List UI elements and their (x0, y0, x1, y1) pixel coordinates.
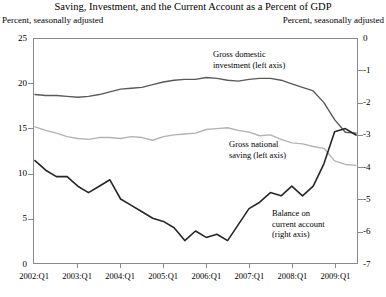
right-tick-mark (358, 135, 363, 136)
right-tick-mark (358, 199, 363, 200)
right-tick-label: -4 (363, 163, 386, 172)
x-tick-mark (249, 264, 250, 268)
left-tick-label: 20 (0, 79, 27, 88)
annotation-line: saving (left axis) (229, 150, 286, 161)
annotation-line: current account (272, 219, 325, 230)
left-tick-mark (28, 174, 33, 175)
right-tick-mark (358, 167, 363, 168)
left-tick-label: 5 (0, 214, 27, 223)
x-tick-label: 2004:Q1 (105, 271, 135, 281)
x-tick-label: 2007:Q1 (234, 271, 264, 281)
x-tick-label: 2005:Q1 (148, 271, 178, 281)
chart-figure: Saving, Investment, and the Current Acco… (0, 0, 386, 297)
chart-title: Saving, Investment, and the Current Acco… (0, 0, 386, 13)
right-tick-label: -5 (363, 195, 386, 204)
x-tick-mark (335, 264, 336, 268)
x-tick-mark (206, 264, 207, 268)
right-tick-mark (358, 232, 363, 233)
annotation-line: Gross national (229, 139, 286, 150)
left-tick-label: 10 (0, 169, 27, 178)
x-tick-label: 2009:Q1 (321, 271, 351, 281)
right-tick-mark (358, 70, 363, 71)
x-tick-label: 2003:Q1 (62, 271, 92, 281)
right-tick-label: -7 (363, 260, 386, 269)
left-tick-mark (28, 219, 33, 220)
x-tick-mark (292, 264, 293, 268)
annotation-line: (right axis) (272, 229, 325, 240)
left-tick-label: 25 (0, 34, 27, 43)
right-tick-label: 0 (363, 34, 386, 43)
series-line (35, 127, 356, 166)
right-tick-label: -3 (363, 130, 386, 139)
right-tick-label: -6 (363, 227, 386, 236)
right-tick-mark (358, 103, 363, 104)
left-tick-mark (28, 128, 33, 129)
left-tick-mark (28, 83, 33, 84)
x-tick-mark (120, 264, 121, 268)
x-tick-label: 2002:Q1 (19, 271, 49, 281)
x-tick-label: 2006:Q1 (191, 271, 221, 281)
x-tick-mark (163, 264, 164, 268)
annotation-line: investment (left axis) (213, 60, 285, 71)
right-tick-label: -2 (363, 98, 386, 107)
left-tick-label: 15 (0, 124, 27, 133)
left-tick-label: 0 (0, 260, 27, 269)
right-axis-note: Percent, seasonally adjusted (283, 15, 384, 26)
right-tick-label: -1 (363, 66, 386, 75)
annotation-gross-national-saving: Gross nationalsaving (left axis) (229, 139, 286, 160)
annotation-balance-on-current-account: Balance oncurrent account(right axis) (272, 208, 325, 240)
x-tick-label: 2008:Q1 (278, 271, 308, 281)
annotation-gross-domestic-investment: Gross domesticinvestment (left axis) (213, 49, 285, 70)
series-line (35, 78, 356, 134)
annotation-line: Balance on (272, 208, 325, 219)
annotation-line: Gross domestic (213, 49, 285, 60)
left-axis-note: Percent, seasonally adjusted (2, 15, 103, 26)
x-tick-mark (77, 264, 78, 268)
